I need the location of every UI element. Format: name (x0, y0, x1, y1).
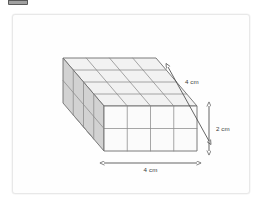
height-dimension: 2 cm (209, 106, 230, 151)
truncated-dark-badge (8, 0, 28, 5)
depth-dimension-label: 4 cm (185, 78, 199, 85)
page-root: 4 cm 2 cm 4 cm (0, 0, 256, 205)
height-dimension-label: 2 cm (216, 125, 230, 132)
prism-diagram: 4 cm 2 cm 4 cm (13, 15, 249, 193)
width-dimension-label: 4 cm (144, 166, 158, 173)
figure-card: 4 cm 2 cm 4 cm (12, 14, 250, 194)
width-dimension: 4 cm (104, 163, 197, 173)
